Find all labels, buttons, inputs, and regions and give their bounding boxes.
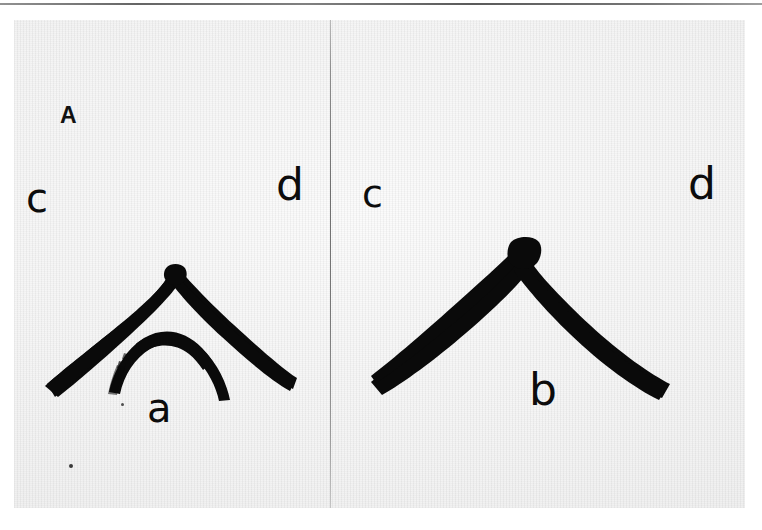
left-inner-arch-tail-dot-2: [122, 353, 130, 361]
panel-letter-A: A: [60, 104, 77, 127]
right-chevron-apex-knob: [507, 237, 541, 269]
panel-divider-line: [330, 20, 331, 508]
left-inner-arch-crown: [136, 334, 213, 370]
right-panel-marker-d: d: [688, 162, 716, 206]
figure-root: A c d a c d b: [0, 0, 762, 530]
ink-strokes-layer: [14, 20, 745, 508]
ink-speck: [69, 464, 73, 468]
left-chevron-apex-knob: [164, 264, 187, 285]
photo-plate: A c d a c d b: [14, 20, 745, 508]
right-panel-feature-label-b: b: [529, 368, 557, 412]
right-panel-marker-c: c: [362, 175, 383, 213]
left-inner-arch-tail-dot-1: [117, 361, 126, 370]
left-panel-marker-d: d: [276, 163, 304, 207]
paper-grain-overlay: [14, 20, 745, 508]
left-outer-chevron-left-arm: [47, 273, 181, 397]
left-panel-feature-label-a: a: [147, 388, 172, 428]
right-chevron-stroke: [371, 247, 670, 398]
ink-speck: [121, 403, 124, 406]
left-outer-chevron-right-arm: [170, 273, 296, 391]
left-inner-arch-faint-tail: [108, 365, 125, 395]
left-outer-chevron-stroke: [45, 270, 297, 397]
left-panel-marker-c: c: [26, 178, 48, 218]
right-chevron-left-arm: [371, 247, 524, 383]
top-rule-divider: [0, 3, 762, 5]
